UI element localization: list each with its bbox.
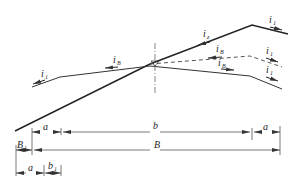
svg-text:1: 1 bbox=[270, 70, 273, 76]
svg-text:i: i bbox=[203, 28, 206, 39]
svg-text:i: i bbox=[266, 64, 269, 75]
svg-text:B: B bbox=[117, 60, 121, 66]
left-original-slope-line bbox=[32, 66, 150, 87]
dim-a-right: a bbox=[263, 121, 268, 132]
slope-label-iB-left: i B bbox=[105, 54, 121, 68]
dimension-row-1: a b a bbox=[32, 120, 280, 132]
svg-text:i: i bbox=[41, 68, 44, 79]
svg-text:i: i bbox=[113, 54, 116, 65]
centerline bbox=[151, 43, 159, 95]
dim-B1: B bbox=[17, 139, 23, 150]
dim-a-bottom: a bbox=[28, 162, 33, 173]
dim-b: b bbox=[153, 120, 158, 131]
svg-text:i: i bbox=[216, 43, 219, 54]
svg-text:B: B bbox=[220, 49, 224, 55]
svg-text:1: 1 bbox=[24, 145, 27, 151]
svg-text:1: 1 bbox=[54, 166, 57, 172]
slope-label-i1-mid-right: i 1 bbox=[266, 45, 278, 62]
dimension-row-3: a b 1 bbox=[16, 160, 61, 173]
svg-text:i: i bbox=[269, 14, 272, 25]
svg-text:i: i bbox=[218, 57, 221, 68]
lower-right-slope-line bbox=[150, 66, 282, 89]
dim-B: B bbox=[154, 139, 160, 150]
svg-text:z: z bbox=[206, 34, 210, 40]
slope-label-iz: i z bbox=[198, 28, 210, 45]
dim-b1: b bbox=[48, 160, 53, 171]
svg-text:B: B bbox=[222, 63, 226, 69]
slope-label-iB-lower: i B bbox=[218, 57, 234, 70]
dim-a-left: a bbox=[43, 121, 48, 132]
slope-label-iB-dashed: i B bbox=[208, 43, 224, 58]
slope-label-i1-lower-right: i 1 bbox=[266, 64, 278, 81]
svg-text:1: 1 bbox=[273, 20, 276, 26]
dimension-row-2: B 1 B bbox=[16, 139, 280, 151]
svg-text:i: i bbox=[266, 45, 269, 56]
cross-section-diagram: i 1 i B i z i 1 i B i 1 i B i 1 bbox=[0, 0, 292, 189]
slope-label-i1-top-right: i 1 bbox=[269, 14, 282, 30]
svg-text:1: 1 bbox=[270, 51, 273, 57]
svg-text:1: 1 bbox=[45, 74, 48, 80]
